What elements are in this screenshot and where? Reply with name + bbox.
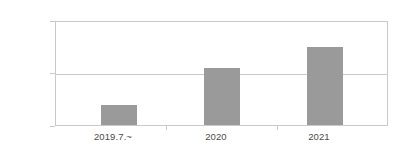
- plot-area: [55, 21, 388, 126]
- bar-2021: [307, 47, 343, 125]
- bar-chart: 10,000 5,000 0 2019.7.~ 2020 2021: [0, 0, 401, 160]
- x-axis-tick-1: [166, 126, 167, 130]
- bar-2020: [204, 68, 240, 125]
- x-axis-label-2019: 2019.7.~: [63, 131, 163, 142]
- bar-2019: [101, 105, 137, 125]
- x-axis-tick-2: [277, 126, 278, 130]
- x-axis-label-2021: 2021: [269, 131, 369, 142]
- y-axis-tick-0: [50, 126, 55, 127]
- x-axis-label-2020: 2020: [166, 131, 266, 142]
